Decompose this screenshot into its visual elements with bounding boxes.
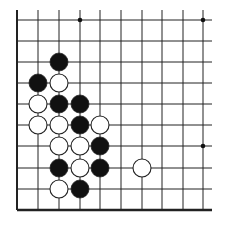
black-stone xyxy=(50,95,68,113)
white-stone xyxy=(71,159,89,177)
black-stone xyxy=(71,116,89,134)
white-stone xyxy=(29,95,47,113)
white-stone xyxy=(29,116,47,134)
black-stone xyxy=(50,159,68,177)
white-stone xyxy=(133,159,151,177)
black-stone xyxy=(50,53,68,71)
star-point xyxy=(201,18,206,23)
star-point xyxy=(78,18,83,23)
black-stone xyxy=(91,159,109,177)
white-stone xyxy=(50,180,68,198)
black-stone xyxy=(71,95,89,113)
white-stone xyxy=(50,137,68,155)
white-stone xyxy=(91,116,109,134)
black-stone xyxy=(71,180,89,198)
white-stone xyxy=(50,74,68,92)
go-board xyxy=(0,0,227,227)
grid-lines xyxy=(17,10,212,210)
white-stone xyxy=(50,116,68,134)
white-stone xyxy=(71,137,89,155)
star-point xyxy=(201,144,206,149)
black-stone xyxy=(29,74,47,92)
black-stone xyxy=(91,137,109,155)
